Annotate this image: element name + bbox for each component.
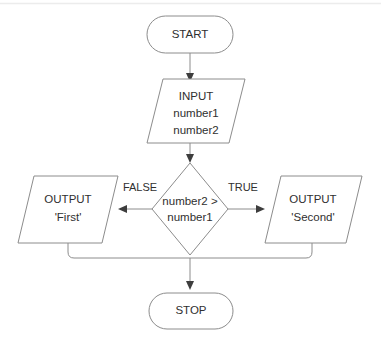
edge-label-true: TRUE [228,181,258,193]
node-output-true[interactable]: OUTPUT 'Second' [265,176,362,243]
connector-output-false-to-merge [68,243,190,258]
decision-label-line1: number2 > [162,195,218,207]
node-start[interactable]: START [147,16,233,53]
edge-label-false: FALSE [123,181,157,193]
input-label-line3: number2 [173,124,218,136]
output-false-label-line1: OUTPUT [44,193,91,205]
output-false-label-line2: 'First' [55,211,82,223]
connector-output-true-to-merge [190,243,312,258]
output-true-label-line2: 'Second' [291,211,334,223]
arrowhead-into-output-false [118,205,127,213]
flowchart-diagram: START INPUT number1 number2 number2 > nu… [0,0,381,342]
arrowhead-into-stop [186,281,194,290]
arrowhead-into-decision [186,154,194,163]
node-input[interactable]: INPUT number1 number2 [147,79,245,143]
input-label-line2: number1 [173,107,218,119]
output-true-parallelogram-shape [265,176,362,243]
node-stop[interactable]: STOP [149,293,233,329]
arrowhead-into-output-true [256,205,265,213]
stop-label: STOP [175,304,206,316]
decision-label-line2: number1 [167,211,212,223]
output-true-label-line1: OUTPUT [289,193,336,205]
output-false-parallelogram-shape [18,176,118,243]
node-output-false[interactable]: OUTPUT 'First' [18,176,118,243]
decision-diamond-shape [152,163,228,255]
node-decision[interactable]: number2 > number1 [152,163,228,255]
input-label-line1: INPUT [179,90,214,102]
start-label: START [172,28,209,40]
